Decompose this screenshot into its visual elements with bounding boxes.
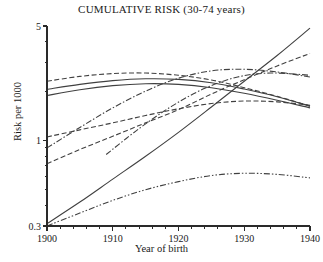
x-tick-label: 1940 — [300, 233, 320, 244]
series-line-series-7-dashdot-rising-from-1909 — [106, 73, 310, 155]
tick-label-layer: 0.31519001910192019301940 — [29, 21, 321, 245]
series-line-series-1-solid-rising-steep — [47, 28, 310, 224]
y-tick-label: 0.3 — [29, 221, 42, 232]
x-tick-label: 1930 — [234, 233, 254, 244]
series-line-series-2-dashed-rising — [47, 53, 310, 163]
series-line-series-4-solid-flat-mid — [47, 84, 310, 108]
chart-container: CUMULATIVE RISK (30-74 years) Risk per 1… — [0, 0, 323, 262]
y-tick-label: 1 — [36, 135, 41, 146]
series-line-series-9-dashdotdot-low-arch — [47, 173, 310, 226]
series-line-series-6-dashdot-rising-from-1900 — [47, 69, 310, 148]
x-tick-label: 1910 — [103, 233, 123, 244]
plot-area: 0.31519001910192019301940 — [0, 0, 323, 262]
y-tick-label: 5 — [36, 21, 41, 32]
x-tick-label: 1900 — [37, 233, 57, 244]
series-layer — [47, 28, 310, 226]
series-line-series-8-dashed-gentle-rise — [47, 101, 310, 137]
x-tick-label: 1920 — [169, 233, 189, 244]
